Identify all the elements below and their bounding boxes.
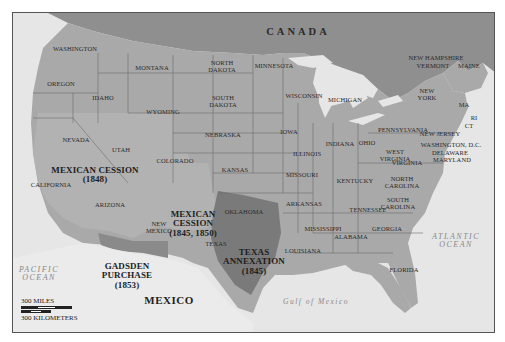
label-ohio: OHIO <box>359 140 376 147</box>
label-kentucky: KENTUCKY <box>337 178 374 185</box>
label-arkansas: ARKANSAS <box>286 201 322 208</box>
label-west-virginia: WESTVIRGINIA <box>380 149 410 163</box>
label-arizona: ARIZONA <box>95 202 125 209</box>
label-massachusetts: MA <box>459 102 470 109</box>
label-florida: FLORIDA <box>390 267 419 274</box>
label-kansas: KANSAS <box>222 167 249 174</box>
label-wisconsin: WISCONSIN <box>285 93 322 100</box>
map-frame: CANADA WASHINGTON OREGON IDAHO MONTANA W… <box>12 12 495 333</box>
label-mexican-cession-1848: MEXICAN CESSION(1848) <box>51 166 138 185</box>
label-gulf-of-mexico: Gulf of Mexico <box>283 298 349 306</box>
label-texas: TEXAS <box>205 241 226 248</box>
label-georgia: GEORGIA <box>372 226 402 233</box>
label-illinois: ILLINOIS <box>293 151 321 158</box>
label-south-carolina: SOUTHCAROLINA <box>381 197 415 211</box>
label-rhode-island: RI <box>471 115 478 122</box>
label-michigan: MICHIGAN <box>328 97 362 104</box>
label-mexican-cession-1845-1850: MEXICANCESSION(1845, 1850) <box>169 210 217 238</box>
label-missouri: MISSOURI <box>286 172 318 179</box>
label-oklahoma: OKLAHOMA <box>225 209 264 216</box>
label-connecticut: CT <box>465 123 474 130</box>
label-iowa: IOWA <box>280 129 297 136</box>
label-minnesota: MINNESOTA <box>255 63 294 70</box>
scale-bar-kilometers <box>21 310 78 313</box>
label-montana: MONTANA <box>135 65 168 72</box>
label-north-carolina: NORTHCAROLINA <box>385 176 419 190</box>
label-alabama: ALABAMA <box>334 234 368 241</box>
label-north-dakota: NORTHDAKOTA <box>208 60 236 74</box>
label-washington-dc: WASHINGTON, D.C. <box>421 142 481 149</box>
label-maryland: MARYLAND <box>433 157 471 164</box>
label-nevada: NEVADA <box>62 137 89 144</box>
label-louisiana: LOUISIANA <box>285 248 321 255</box>
label-utah: UTAH <box>112 147 130 154</box>
label-texas-annexation: TEXASANNEXATION(1845) <box>223 248 285 276</box>
label-new-hampshire: NEW HAMPSHIRE <box>408 55 463 62</box>
label-pacific-ocean: PACIFICOCEAN <box>19 266 59 283</box>
scale-miles-label: 300 MILES <box>21 297 78 305</box>
label-colorado: COLORADO <box>157 158 194 165</box>
label-south-dakota: SOUTHDAKOTA <box>209 95 237 109</box>
label-vermont: VERMONT <box>417 63 450 70</box>
label-wyoming: WYOMING <box>146 109 180 116</box>
label-canada: CANADA <box>266 26 330 37</box>
label-indiana: INDIANA <box>326 141 355 148</box>
label-nebraska: NEBRASKA <box>205 132 241 139</box>
label-idaho: IDAHO <box>92 95 113 102</box>
label-mississippi: MISSISSIPPI <box>304 226 341 233</box>
label-new-jersey: NEW JERSEY <box>420 131 460 138</box>
label-gadsden-purchase: GADSDENPURCHASE(1853) <box>102 262 152 290</box>
scale-km-label: 300 KILOMETERS <box>21 314 78 322</box>
map-scale: 300 MILES 300 KILOMETERS <box>21 297 78 322</box>
label-atlantic-ocean: ATLANTICOCEAN <box>432 233 480 250</box>
scale-bar-miles <box>21 306 78 309</box>
label-maine: MAINE <box>458 63 480 70</box>
label-mexico: MEXICO <box>144 295 193 307</box>
label-washington: WASHINGTON <box>53 46 97 53</box>
label-oregon: OREGON <box>47 81 75 88</box>
label-new-york: NEWYORK <box>418 88 437 102</box>
